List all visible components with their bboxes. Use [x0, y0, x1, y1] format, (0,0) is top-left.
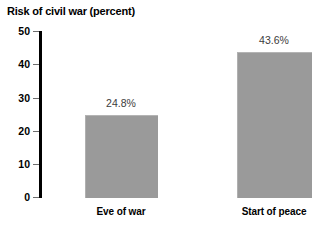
y-tick-label-0: 0	[0, 192, 30, 203]
y-tick-mark-0	[33, 197, 39, 198]
bar-value-label-start-of-peace: 43.6%	[237, 34, 311, 46]
bar-value-label-eve-of-war: 24.8%	[85, 97, 157, 109]
bar-start-of-peace[interactable]	[237, 52, 312, 198]
bar-chart: Risk of civil war (percent) 50 40 30 20 …	[0, 0, 323, 227]
y-tick-mark-20	[33, 131, 39, 132]
y-axis-line	[39, 31, 42, 198]
bar-category-label-start-of-peace: Start of peace	[226, 206, 322, 218]
y-tick-mark-40	[33, 64, 39, 65]
plot-area: 50 40 30 20 10 0 24.8% Eve of war 43.6% …	[0, 0, 323, 227]
y-tick-mark-50	[33, 31, 39, 32]
bar-eve-of-war[interactable]	[85, 115, 158, 198]
y-tick-label-50: 50	[0, 26, 30, 37]
y-tick-label-20: 20	[0, 126, 30, 137]
y-tick-label-10: 10	[0, 159, 30, 170]
bar-category-label-eve-of-war: Eve of war	[76, 206, 166, 218]
y-tick-label-40: 40	[0, 59, 30, 70]
y-tick-mark-30	[33, 98, 39, 99]
y-tick-label-30: 30	[0, 93, 30, 104]
y-tick-mark-10	[33, 164, 39, 165]
